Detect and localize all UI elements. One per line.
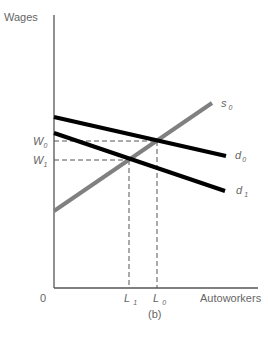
- w0-label: W0: [33, 135, 47, 149]
- x-axis-label: Autoworkers: [200, 292, 262, 304]
- w1-label: W1: [33, 154, 47, 168]
- labor-market-diagram: Wages Autoworkers 0 (b) s0 d0 d1 W0 W1 L…: [0, 0, 268, 342]
- d1-label: d1: [236, 184, 248, 198]
- l0-label: L0: [153, 292, 166, 306]
- s0-label: s0: [221, 97, 233, 111]
- caption: (b): [148, 308, 161, 320]
- l1-label: L1: [124, 292, 137, 306]
- supply-curve-s0: [54, 103, 212, 211]
- origin-label: 0: [40, 292, 46, 304]
- y-axis-label: Wages: [4, 11, 38, 23]
- d0-label: d0: [235, 149, 246, 163]
- demand-curve-d1: [54, 133, 225, 191]
